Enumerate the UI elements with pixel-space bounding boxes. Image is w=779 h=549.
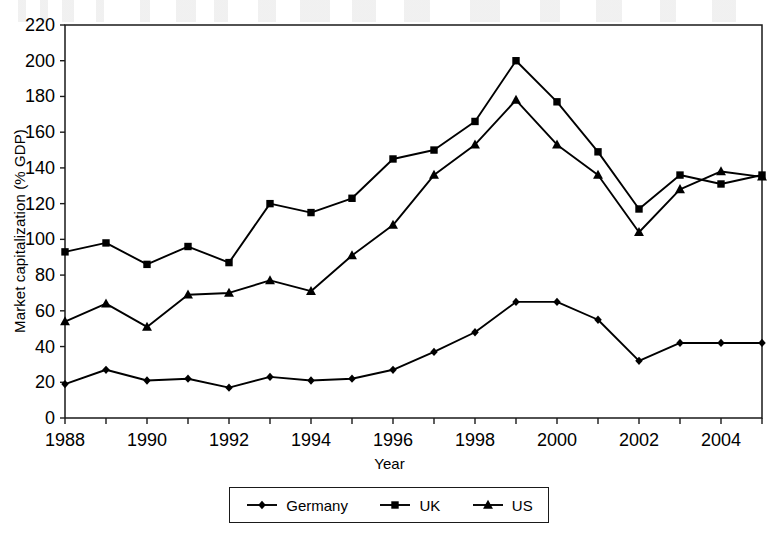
x-axis-title: Year: [0, 455, 779, 472]
data-point-marker: Germany 1996: 27: [389, 366, 397, 374]
data-point-marker: US 1989: 64: [101, 298, 111, 307]
chart-legend: GermanyUKUS: [229, 487, 549, 523]
data-point-marker: UK 1998: 166: [471, 118, 478, 125]
y-axis-tick-label: 180: [25, 86, 55, 106]
data-point-marker: Germany 1995: 22: [348, 375, 356, 383]
x-axis-tick-label: 2004: [701, 430, 741, 450]
data-point-marker: Germany 1993: 23: [266, 373, 274, 381]
data-point-marker: US 2001: 136: [593, 170, 603, 179]
data-point-marker: UK 1989: 98: [102, 239, 109, 246]
series-us: US 1988: 54US 1989: 64US 1990: 51US 1991…: [60, 95, 767, 331]
legend-marker-diamond-icon: [245, 497, 279, 513]
series-line: [65, 302, 762, 388]
data-point-marker: UK 1990: 86: [143, 261, 150, 268]
data-point-marker: Germany 1989: 27: [102, 366, 110, 374]
data-point-marker: Germany 2003: 42: [676, 339, 684, 347]
x-axis-tick-label: 1998: [455, 430, 495, 450]
y-axis-tick-label: 60: [35, 301, 55, 321]
y-axis-tick-label: 40: [35, 337, 55, 357]
data-point-marker: US 1995: 91: [347, 250, 357, 259]
data-point-marker: UK 1997: 150: [430, 146, 437, 153]
data-point-marker: UK 1999: 200: [512, 57, 519, 64]
plot-frame: [65, 25, 762, 418]
legend-item-label: US: [512, 497, 533, 514]
data-point-marker: UK 1992: 87: [225, 259, 232, 266]
x-axis-tick-label: 1996: [373, 430, 413, 450]
data-point-marker: Germany 2005: 42: [758, 339, 766, 347]
legend-marker-triangle-icon: [471, 497, 505, 513]
legend-item-label: UK: [419, 497, 440, 514]
x-axis-tick-label: 1994: [291, 430, 331, 450]
y-axis-tick-label: 220: [25, 15, 55, 35]
data-point-marker: UK 1988: 93: [61, 248, 68, 255]
series-line: [65, 61, 762, 265]
data-point-marker: Germany 1992: 17: [225, 383, 233, 391]
data-point-marker: Germany 2004: 42: [717, 339, 725, 347]
data-point-marker: UK 1991: 96: [184, 243, 191, 250]
x-axis-tick-label: 2002: [619, 430, 659, 450]
data-point-marker: UK 2004: 131: [717, 180, 724, 187]
data-point-marker: US 1997: 136: [429, 170, 439, 179]
legend-item-uk: UK: [378, 497, 440, 514]
y-axis-tick-label: 100: [25, 229, 55, 249]
data-point-marker: Germany 2000: 65: [553, 298, 561, 306]
series-line: [65, 100, 762, 327]
data-point-marker: UK 2002: 117: [635, 205, 642, 212]
y-axis-tick-label: 0: [45, 408, 55, 428]
y-axis-tick-label: 200: [25, 51, 55, 71]
data-point-marker: Germany 1991: 22: [184, 375, 192, 383]
legend-item-label: Germany: [286, 497, 348, 514]
data-point-marker: UK 1996: 145: [389, 155, 396, 162]
y-axis-tick-label: 160: [25, 122, 55, 142]
x-axis-tick-label: 1992: [209, 430, 249, 450]
data-point-marker: UK 1995: 123: [348, 195, 355, 202]
x-axis-tick-label: 1988: [45, 430, 85, 450]
data-point-marker: UK 2003: 136: [676, 171, 683, 178]
y-axis-tick-label: 80: [35, 265, 55, 285]
data-point-marker: Germany 1988: 19: [61, 380, 69, 388]
y-axis-tick-label: 140: [25, 158, 55, 178]
data-point-marker: UK 2001: 149: [594, 148, 601, 155]
x-axis-tick-label: 2000: [537, 430, 577, 450]
legend-marker-square-icon: [378, 497, 412, 513]
data-point-marker: UK 1994: 115: [307, 209, 314, 216]
chart-figure: Market capitalization (% GDP) 0204060801…: [0, 0, 779, 549]
data-point-marker: Germany 1990: 21: [143, 376, 151, 384]
legend-item-us: US: [471, 497, 533, 514]
line-chart-plot: 0204060801001201401601802002201988199019…: [0, 0, 779, 480]
data-point-marker: UK 2000: 177: [553, 98, 560, 105]
x-axis-tick-label: 1990: [127, 430, 167, 450]
y-axis-tick-label: 20: [35, 372, 55, 392]
data-point-marker: Germany 1997: 37: [430, 348, 438, 356]
data-point-marker: UK 1993: 120: [266, 200, 273, 207]
legend-item-germany: Germany: [245, 497, 348, 514]
data-point-marker: US 1999: 178: [511, 95, 521, 104]
y-axis-tick-label: 120: [25, 194, 55, 214]
data-point-marker: US 2004: 138: [716, 166, 726, 175]
data-point-marker: Germany 1994: 21: [307, 376, 315, 384]
data-point-marker: US 1993: 77: [265, 275, 275, 284]
series-uk: UK 1988: 93UK 1989: 98UK 1990: 86UK 1991…: [61, 57, 765, 268]
